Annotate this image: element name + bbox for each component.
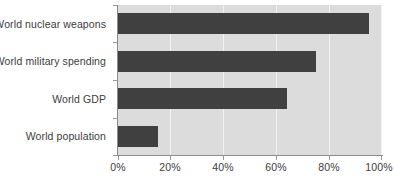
y-axis-line bbox=[117, 5, 118, 156]
x-axis-tick bbox=[118, 156, 119, 160]
y-axis-label-text: World military spending bbox=[0, 55, 106, 67]
x-axis-tick-label: 20% bbox=[159, 161, 180, 174]
x-axis-tick-label: 80% bbox=[318, 161, 339, 174]
y-axis-label-item: World military spending bbox=[0, 43, 112, 81]
x-axis-tick bbox=[276, 156, 277, 160]
x-axis-tick-labels: 0% 20% 40% 60% 80% 100% bbox=[118, 161, 382, 177]
y-axis-label-item: World population bbox=[0, 118, 112, 156]
y-axis-label-item: World nuclear weapons bbox=[0, 5, 112, 43]
y-axis-label-text: World GDP bbox=[52, 93, 106, 105]
bar-row bbox=[118, 118, 382, 156]
x-axis-tick-marks bbox=[118, 156, 382, 160]
y-axis-label-text: World population bbox=[26, 130, 106, 142]
bar-world-gdp[interactable] bbox=[118, 88, 287, 109]
x-axis-tick-label: 100% bbox=[365, 161, 392, 174]
y-axis-label-item: World GDP bbox=[0, 80, 112, 118]
x-axis-tick-label: 60% bbox=[265, 161, 286, 174]
bar-world-population[interactable] bbox=[118, 126, 158, 147]
bar-chart: World nuclear weapons World military spe… bbox=[0, 0, 394, 183]
x-axis-tick bbox=[223, 156, 224, 160]
x-axis-tick-label: 40% bbox=[212, 161, 233, 174]
x-axis-tick-label: 0% bbox=[110, 161, 125, 174]
bar-row bbox=[118, 80, 382, 118]
x-axis-tick bbox=[170, 156, 171, 160]
bar-world-nuclear-weapons[interactable] bbox=[118, 13, 369, 34]
bar-row bbox=[118, 43, 382, 81]
plot-area bbox=[118, 5, 382, 155]
y-axis-label-text: World nuclear weapons bbox=[0, 18, 106, 30]
bar-row bbox=[118, 5, 382, 43]
y-axis-category-labels: World nuclear weapons World military spe… bbox=[0, 5, 112, 155]
x-axis-tick bbox=[381, 156, 382, 160]
x-axis-tick bbox=[329, 156, 330, 160]
bar-world-military-spending[interactable] bbox=[118, 51, 316, 72]
